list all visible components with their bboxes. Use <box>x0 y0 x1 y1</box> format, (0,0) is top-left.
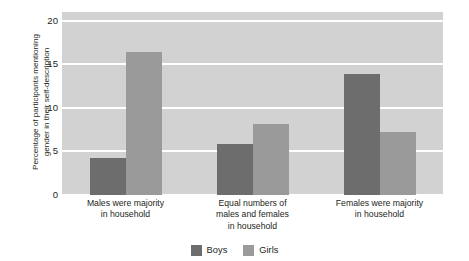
category-label-3: Females were majorityin household <box>316 198 443 221</box>
chart-legend: BoysGirls <box>0 239 469 261</box>
y-axis-tick-labels: 05101520 <box>38 0 58 261</box>
plot-area <box>62 12 443 195</box>
category-label-2-line-3: in household <box>189 221 316 232</box>
legend-label-girls: Girls <box>259 245 278 256</box>
gridline-10 <box>62 107 443 109</box>
bar-girls-group-2 <box>253 124 289 195</box>
y-tick-label-15: 15 <box>40 59 58 69</box>
y-tick-label-5: 5 <box>40 146 58 156</box>
x-axis-category-labels: Males were majorityin householdEqual num… <box>62 198 443 240</box>
legend-swatch-girls <box>243 245 254 256</box>
y-tick-label-20: 20 <box>40 16 58 26</box>
bar-girls-group-1 <box>126 52 162 195</box>
bar-boys-group-2 <box>217 144 253 195</box>
bar-chart-figure: Percentage of participants mentioning ge… <box>0 0 469 261</box>
legend-label-boys: Boys <box>207 245 228 256</box>
category-label-1-line-1: Males were majority <box>62 198 189 209</box>
gridline-20 <box>62 20 443 22</box>
category-label-1: Males were majorityin household <box>62 198 189 221</box>
gridline-15 <box>62 63 443 65</box>
bar-boys-group-3 <box>344 74 380 195</box>
category-label-3-line-1: Females were majority <box>316 198 443 209</box>
bar-boys-group-1 <box>90 158 126 195</box>
y-tick-label-10: 10 <box>40 103 58 113</box>
category-label-2-line-2: males and females <box>189 209 316 220</box>
legend-item-girls: Girls <box>243 245 278 256</box>
category-label-3-line-2: in household <box>316 209 443 220</box>
category-label-2-line-1: Equal numbers of <box>189 198 316 209</box>
y-axis-title-container: Percentage of participants mentioning ge… <box>0 0 40 200</box>
category-label-2: Equal numbers ofmales and femalesin hous… <box>189 198 316 232</box>
legend-item-boys: Boys <box>191 245 228 256</box>
legend-swatch-boys <box>191 245 202 256</box>
bar-girls-group-3 <box>380 132 416 195</box>
y-tick-label-0: 0 <box>40 190 58 200</box>
category-label-1-line-2: in household <box>62 209 189 220</box>
